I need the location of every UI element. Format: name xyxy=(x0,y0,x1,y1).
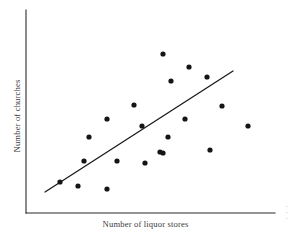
data-point xyxy=(219,103,224,108)
data-point xyxy=(104,186,109,191)
data-point xyxy=(142,160,147,165)
data-point xyxy=(160,150,165,155)
y-axis-label: Number of churches xyxy=(12,56,22,176)
data-point xyxy=(104,116,109,121)
scan-artifact-mark xyxy=(286,212,288,213)
data-point xyxy=(168,78,173,83)
data-point xyxy=(114,158,119,163)
data-point xyxy=(160,51,165,56)
regression-trend-line xyxy=(45,71,233,192)
y-axis-label-rotation-wrapper: Number of churches xyxy=(12,56,26,176)
data-point xyxy=(86,134,91,139)
data-point xyxy=(81,158,86,163)
data-point xyxy=(182,116,187,121)
scan-artifact-mark xyxy=(286,206,288,207)
data-point xyxy=(131,102,136,107)
x-axis-label: Number of liquor stores xyxy=(0,219,291,229)
plot-canvas xyxy=(0,0,291,241)
data-point xyxy=(75,183,80,188)
data-point xyxy=(165,134,170,139)
data-point xyxy=(204,74,209,79)
data-point xyxy=(186,64,191,69)
scan-artifact-mark xyxy=(286,218,288,219)
data-point xyxy=(207,147,212,152)
scatter-plot-figure: Number of liquor stores Number of church… xyxy=(0,0,291,241)
data-point xyxy=(245,123,250,128)
axes-group xyxy=(26,10,275,213)
